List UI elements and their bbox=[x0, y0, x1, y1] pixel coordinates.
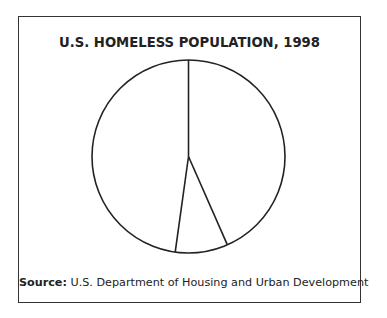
slice-divider bbox=[175, 157, 188, 253]
slice-divider bbox=[189, 157, 228, 245]
pie-slices bbox=[92, 60, 285, 253]
pie-chart bbox=[0, 0, 387, 318]
